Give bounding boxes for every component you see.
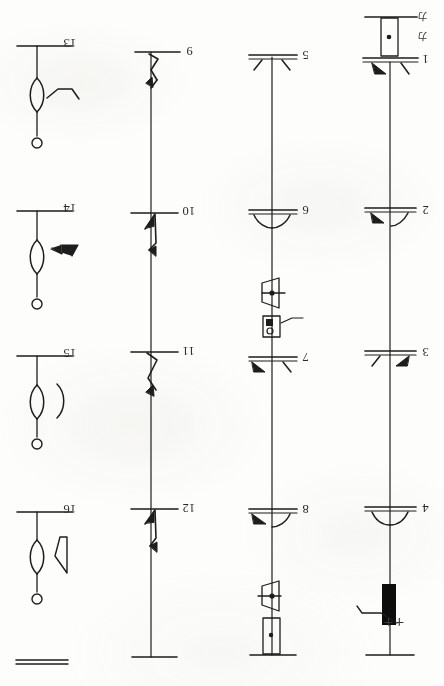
item-12-graphic <box>131 509 178 552</box>
item-11-graphic <box>131 352 178 396</box>
label-item-4: 4 <box>422 501 429 514</box>
item-6-attachment-box <box>263 316 303 337</box>
label-item-7: 7 <box>302 350 309 363</box>
label-item-11: 11 <box>182 344 195 357</box>
label-item-12: 12 <box>182 501 195 514</box>
drawing-sheet: 13 14 15 16 9 10 11 12 5 6 7 8 1 2 3 4 カ… <box>0 0 444 686</box>
item-10-graphic <box>131 213 178 256</box>
katakana-mark-lower: カ <box>417 28 428 42</box>
label-item-5: 5 <box>302 48 309 61</box>
label-item-2: 2 <box>422 203 429 216</box>
katakana-mark-upper: カ <box>417 8 428 22</box>
label-item-10: 10 <box>182 204 195 217</box>
label-item-16: 16 <box>63 502 76 515</box>
label-item-6: 6 <box>302 203 309 216</box>
item-7-graphic <box>249 357 297 372</box>
item-14-graphic <box>17 211 78 309</box>
label-item-14: 14 <box>63 201 76 214</box>
label-item-3: 3 <box>422 345 429 358</box>
item-5-graphic <box>249 55 297 70</box>
figure-linework <box>0 0 444 686</box>
column-1-footer-rule <box>16 660 68 664</box>
item-9-graphic <box>135 52 180 88</box>
label-item-9: 9 <box>186 44 193 57</box>
label-item-8: 8 <box>302 502 309 515</box>
item-8-attachment-parallelogram <box>258 581 281 611</box>
label-item-1: 1 <box>422 52 429 65</box>
plus-plus-mark: ++ <box>383 614 405 630</box>
item-15-graphic <box>17 356 72 449</box>
item-8-graphic <box>249 509 297 527</box>
label-item-15: 15 <box>63 346 76 359</box>
item-13-graphic <box>17 46 79 148</box>
item-16-graphic <box>17 512 72 604</box>
item-6-graphic <box>249 210 297 228</box>
label-item-13: 13 <box>63 36 76 49</box>
item-6-attachment-parallelogram <box>262 278 285 308</box>
